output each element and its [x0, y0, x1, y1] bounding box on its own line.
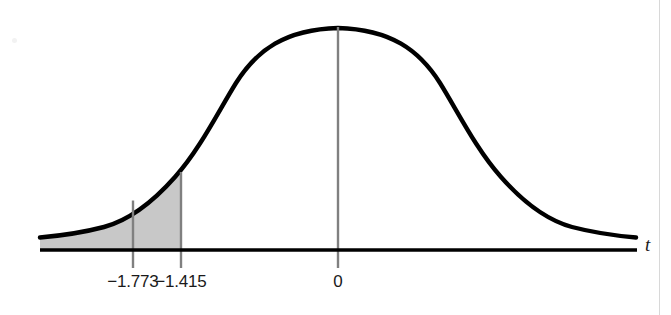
axis-variable-label-t: t — [645, 234, 650, 256]
tick-label-neg-1-773: −1.773 — [107, 272, 158, 292]
tick-label-neg-1-415: −1.415 — [155, 272, 206, 292]
left-tail-shaded-area — [40, 173, 181, 250]
tick-label-zero: 0 — [333, 272, 342, 292]
distribution-plot — [0, 0, 671, 315]
figure-right-border — [659, 0, 660, 315]
t-distribution-figure: −1.773 −1.415 0 t — [0, 0, 671, 315]
